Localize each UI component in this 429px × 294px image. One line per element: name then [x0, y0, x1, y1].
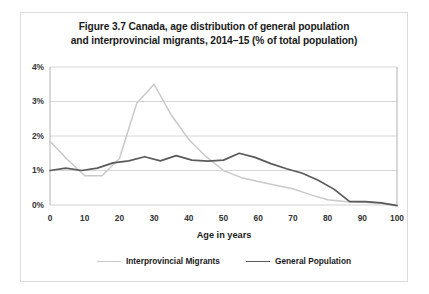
series-line-general-population — [50, 153, 397, 205]
x-tick-label-20: 20 — [104, 213, 134, 223]
figure-container: Figure 3.7 Canada, age distribution of g… — [0, 0, 429, 294]
x-tick-label-80: 80 — [313, 213, 343, 223]
legend-entry-general-population[interactable]: General Population — [246, 256, 351, 266]
x-tick-label-60: 60 — [243, 213, 273, 223]
plot-area — [0, 0, 429, 294]
x-tick-label-10: 10 — [70, 213, 100, 223]
y-tick-label-4%: 4% — [18, 62, 44, 72]
x-tick-label-50: 50 — [209, 213, 239, 223]
y-tick-label-0%: 0% — [18, 200, 44, 210]
x-axis-title: Age in years — [50, 230, 398, 240]
x-tick-label-0: 0 — [35, 213, 65, 223]
y-tick-label-2%: 2% — [18, 131, 44, 141]
series-line-interprovincial-migrants — [50, 84, 397, 205]
legend-entry-interprovincial-migrants[interactable]: Interprovincial Migrants — [97, 256, 220, 266]
gridlines — [50, 67, 397, 205]
chart-legend: Interprovincial MigrantsGeneral Populati… — [50, 256, 398, 266]
legend-label: Interprovincial Migrants — [126, 256, 220, 266]
x-tick-label-100: 100 — [382, 213, 412, 223]
x-tick-label-40: 40 — [174, 213, 204, 223]
y-tick-label-3%: 3% — [18, 96, 44, 106]
legend-swatch-icon — [97, 261, 121, 262]
legend-swatch-icon — [246, 261, 270, 262]
legend-label: General Population — [275, 256, 351, 266]
y-tick-label-1%: 1% — [18, 165, 44, 175]
x-tick-label-70: 70 — [278, 213, 308, 223]
data-series — [50, 84, 397, 205]
x-tick-label-30: 30 — [139, 213, 169, 223]
x-tick-label-90: 90 — [347, 213, 377, 223]
